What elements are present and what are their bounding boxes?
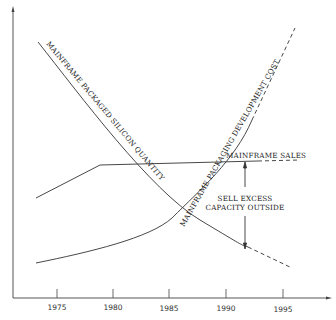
tick-label: 1980: [103, 303, 122, 312]
line-chart: 1975 1980 1985 1990 1995 MAINFRAME PACKA…: [0, 0, 336, 320]
x-axis-arrow-icon: [326, 297, 332, 300]
label-silicon-quantity: MAINFRAME PACKAGED SILICON QUANTITY: [44, 40, 166, 183]
tick-label: 1985: [159, 304, 178, 313]
series-mainframe-sales: [36, 160, 300, 198]
annotation-line-2: CAPACITY OUTSIDE: [206, 203, 285, 212]
x-ticks: [57, 289, 283, 298]
chart-figure: 1975 1980 1985 1990 1995 MAINFRAME PACKA…: [0, 0, 336, 320]
y-axis-arrow-icon: [12, 6, 15, 12]
series-development-cost: [36, 28, 295, 263]
annotation-line-1: SELL EXCESS: [218, 194, 273, 203]
label-mainframe-sales: MAINFRAME SALES: [226, 151, 306, 160]
tick-label: 1995: [273, 305, 292, 314]
tick-label: 1990: [216, 304, 235, 313]
tick-label: 1975: [47, 303, 66, 312]
